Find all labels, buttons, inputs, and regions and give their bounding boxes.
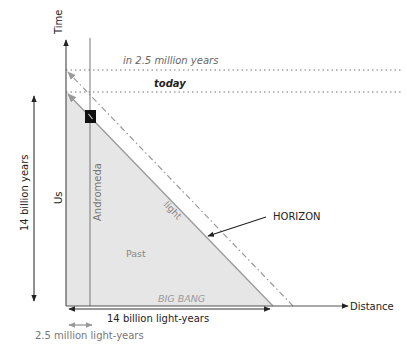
distance-axis-label: Distance [350,301,394,312]
past-region-label: Past [126,248,146,259]
horizon-diagram: Time Distance in 2.5 million years today… [0,0,407,350]
horizon-label: HORIZON [273,211,321,222]
today-label: today [154,78,186,89]
andromeda-label: Andromeda [92,163,103,221]
andromeda-distance-label: 2.5 million light-years [35,330,144,341]
us-label: Us [53,191,64,204]
andromeda-galaxy-icon [85,110,96,123]
big-bang-label: BIG BANG [158,293,205,304]
future-time-label: in 2.5 million years [123,55,218,66]
age-span-label: 14 billion years [19,154,30,231]
distance-span-label: 14 billion light-years [107,313,209,324]
time-axis-label: Time [53,10,64,35]
